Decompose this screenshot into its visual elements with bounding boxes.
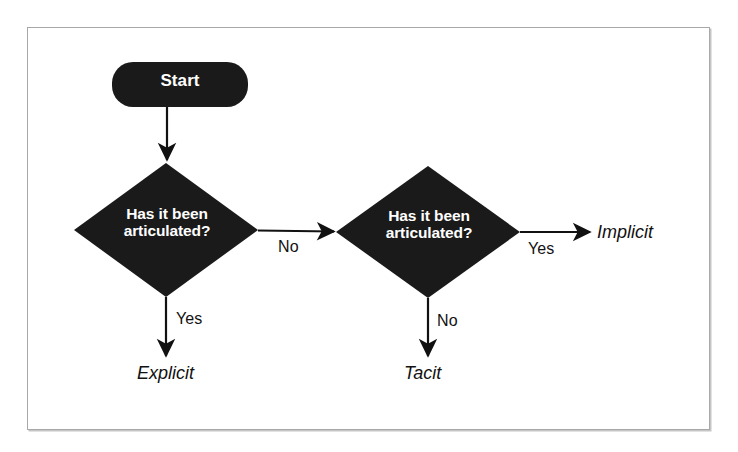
flowchart-screenshot: Decision 2 --> Explicit --> Implicit -->… xyxy=(0,0,738,452)
start-node-shape xyxy=(112,62,248,107)
decision-1-node-shape xyxy=(74,163,258,297)
edge-decision-1-no xyxy=(258,231,334,232)
decision-2-node-shape xyxy=(336,166,520,298)
flowchart-canvas: Decision 2 --> Explicit --> Implicit -->… xyxy=(0,0,738,452)
